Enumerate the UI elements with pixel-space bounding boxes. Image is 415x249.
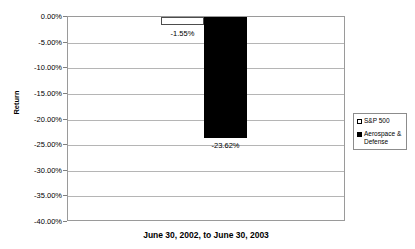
y-axis-tick-label: -20.00%	[14, 114, 62, 123]
legend-swatch-icon	[357, 132, 362, 137]
bars-layer: -1.55%-23.62%	[68, 17, 344, 220]
y-axis-tick-mark	[63, 170, 67, 171]
y-axis-tick-label: -10.00%	[14, 63, 62, 72]
chart-container: Return 0.00%-5.00%-10.00%-15.00%-20.00%-…	[0, 0, 415, 249]
y-axis-tick-label: -25.00%	[14, 140, 62, 149]
y-axis-tick-label: -35.00%	[14, 191, 62, 200]
plot-area: -1.55%-23.62%	[67, 16, 345, 221]
legend-item[interactable]: Aerospace & Defense	[357, 130, 403, 146]
legend-swatch-icon	[357, 119, 362, 124]
y-axis-tick-mark	[63, 144, 67, 145]
data-label: -1.55%	[171, 29, 195, 38]
y-axis-tick-label: -40.00%	[14, 217, 62, 226]
y-axis-tick-mark	[63, 42, 67, 43]
y-axis-tick-labels: 0.00%-5.00%-10.00%-15.00%-20.00%-25.00%-…	[14, 16, 62, 221]
legend-item[interactable]: S&P 500	[357, 117, 403, 125]
data-label: -23.62%	[212, 141, 240, 150]
y-axis-tick-mark	[63, 119, 67, 120]
y-axis-tick-mark	[63, 16, 67, 17]
bar-sp500	[161, 17, 204, 25]
y-axis-tick-label: -5.00%	[14, 37, 62, 46]
y-axis-tick-label: -30.00%	[14, 165, 62, 174]
y-axis-tick-label: -15.00%	[14, 88, 62, 97]
y-axis-tick-mark	[63, 93, 67, 94]
chart-legend: S&P 500Aerospace & Defense	[353, 113, 407, 150]
y-axis-tick-mark	[63, 67, 67, 68]
x-axis-title: June 30, 2002, to June 30, 2003	[67, 230, 345, 240]
y-axis-tick-mark	[63, 221, 67, 222]
legend-label: S&P 500	[364, 117, 390, 125]
bar-aerospace-defense	[204, 17, 247, 138]
y-axis-tick-mark	[63, 195, 67, 196]
legend-label: Aerospace & Defense	[364, 130, 403, 146]
y-axis-tick-label: 0.00%	[14, 12, 62, 21]
